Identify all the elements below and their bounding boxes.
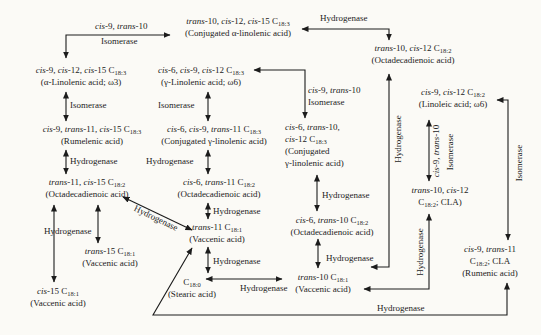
label-left-hydrogenase-2: Hydrogenase (44, 226, 91, 236)
node-line: cis-6, trans-10 C18:2 (286, 214, 378, 226)
label-stearic-hydrogenase: Hydrogenase (240, 283, 287, 293)
label-c13-isomerase-line2: Isomerase (308, 97, 344, 107)
node-line: cis-9, cis-12, cis-15 C18:3 (18, 64, 144, 76)
label-left-isomerase: Isomerase (70, 100, 106, 110)
node-line: cis-9, trans-11 (446, 243, 534, 255)
node-line: cis-9, cis-12 C18:2 (406, 86, 500, 98)
node-line: C18:2; CLA (446, 255, 534, 267)
node-linoleic-acid: cis-9, cis-12 C18:2(Linoleic acid; ω6) (406, 86, 500, 110)
node-conjugated-alpha-linolenic-acid: trans-10, cis-12, cis-15 C18:3(Conjugate… (174, 15, 302, 39)
node-gamma-linolenic-acid: cis-6, cis-9, cis-12 C18:3(γ-Linolenic a… (148, 64, 254, 88)
node-line: trans-10 C18:1 (286, 271, 360, 283)
node-line: cis-6, cis-9, trans-11 C18:3 (148, 123, 280, 135)
node-line: (Vaccenic acid) (172, 233, 262, 245)
node-cis15-vaccenic-acid: cis-15 C18:1(Vaccenic acid) (24, 285, 92, 309)
node-t10-vaccenic-acid: trans-10 C18:1(Vaccenic acid) (286, 271, 360, 295)
label-vertical-isomerase-line2: Isomerase (445, 134, 455, 170)
node-line: trans-10, cis-12 (395, 184, 485, 196)
node-c6t11-octadecadienoic-acid: cis-6, trans-11 C18:2(Octadecadienoic ac… (154, 176, 284, 200)
node-conjugated-gamma-linolenic-t10: cis-6, trans-10,cis-12 C18:3(Conjugatedγ… (285, 121, 365, 169)
node-t10c12-cla: trans-10, cis-12C18:2; CLA) (395, 184, 485, 208)
node-line: trans-10, cis-12 C18:2 (352, 42, 474, 54)
label-top-left-isomerase-line2: Isomerase (101, 36, 137, 46)
node-line: (Octadecadienoic acid) (17, 188, 157, 200)
node-line: γ-linolenic acid) (285, 157, 365, 169)
node-line: (Conjugated (285, 145, 365, 157)
label-left-hydrogenase-1: Hydrogenase (70, 156, 117, 166)
label-mid-hydrogenase-3: Hydrogenase (213, 256, 260, 266)
label-vertical-hydrogenase-left: Hydrogenase (393, 115, 403, 162)
arrow-linoleic-rumenic (497, 100, 508, 240)
node-line: (Vaccenic acid) (286, 283, 360, 295)
node-line: cis-15 C18:1 (24, 285, 92, 297)
node-line: (Vaccenic acid) (24, 297, 92, 309)
node-alpha-linolenic-acid: cis-9, cis-12, cis-15 C18:3(α-Linolenic … (18, 64, 144, 88)
node-line: trans-11, cis-15 C18:2 (17, 176, 157, 188)
node-trans15-vaccenic-acid: trans-15 C18:1(Vaccenic acid) (76, 245, 144, 269)
node-line: cis-6, trans-11 C18:2 (154, 176, 284, 188)
node-line: (γ-Linolenic acid; ω6) (148, 76, 254, 88)
label-mid-isomerase: Isomerase (158, 100, 194, 110)
node-line: cis-6, trans-10, (285, 121, 365, 133)
node-line: (Conjugated γ-linolenic acid) (148, 135, 280, 147)
label-vertical-hydrogenase-right: Hydrogenase (415, 228, 425, 275)
label-mid-hydrogenase-1: Hydrogenase (146, 156, 193, 166)
label-c15-hydrogenase: Hydrogenase (326, 253, 373, 263)
node-c6t10-octadecadienoic-acid: cis-6, trans-10 C18:2(Octadecadienoic ac… (286, 214, 378, 238)
node-line: (Linoleic acid; ω6) (406, 98, 500, 110)
label-top-left-isomerase-line1: cis-9, trans-10 (95, 21, 148, 31)
arrow-gamma-linolenic-conjugated-gamma-t10 (254, 70, 305, 118)
label-diagonal-hydrogenase: Hydrogenase (132, 203, 179, 233)
node-line: trans-10, cis-12, cis-15 C18:3 (174, 15, 302, 27)
node-line: trans-11 C18:1 (172, 221, 262, 233)
label-mid-hydrogenase-2: Hydrogenase (213, 206, 260, 216)
node-line: (Rumenic acid) (446, 267, 534, 279)
arrow-conjugated-alpha-t10c12-octadecadienoic (302, 29, 389, 40)
label-c13-isomerase-line1: cis-9, trans-10 (308, 85, 361, 95)
node-line: (α-Linolenic acid; ω3) (18, 76, 144, 88)
label-vertical-isomerase-line1: cis-9, trans-10 (431, 125, 441, 178)
node-t11c15-octadecadienoic-acid: trans-11, cis-15 C18:2(Octadecadienoic a… (17, 176, 157, 200)
node-stearic-acid: C18:0(Stearic acid) (158, 276, 226, 300)
node-t11-vaccenic-acid: trans-11 C18:1(Vaccenic acid) (172, 221, 262, 245)
node-rumelenic-acid: cis-9, trans-11, cis-15 C18:3(Rumelenic … (24, 123, 160, 147)
node-line: trans-15 C18:1 (76, 245, 144, 257)
node-line: (Octadecadienoic acid) (286, 226, 378, 238)
node-line: (Vaccenic acid) (76, 257, 144, 269)
label-c14-hydrogenase: Hydrogenase (322, 190, 369, 200)
label-far-right-isomerase: Isomerase (514, 145, 524, 181)
node-t10c12-octadecadienoic-acid: trans-10, cis-12 C18:2(Octadecadienoic a… (352, 42, 474, 66)
node-line: C18:0 (158, 276, 226, 288)
node-line: (Stearic acid) (158, 288, 226, 300)
node-line: (Conjugated α-linolenic acid) (174, 27, 302, 39)
label-top-hydrogenase: Hydrogenase (320, 13, 367, 23)
node-rumenic-acid: cis-9, trans-11C18:2; CLA(Rumenic acid) (446, 243, 534, 279)
node-conjugated-gamma-linolenic-t11: cis-6, cis-9, trans-11 C18:3(Conjugated … (148, 123, 280, 147)
node-line: cis-9, trans-11, cis-15 C18:3 (24, 123, 160, 135)
node-line: C18:2; CLA) (395, 196, 485, 208)
node-line: cis-6, cis-9, cis-12 C18:3 (148, 64, 254, 76)
node-line: (Octadecadienoic acid) (352, 54, 474, 66)
node-line: (Octadecadienoic acid) (154, 188, 284, 200)
node-line: (Rumelenic acid) (24, 135, 160, 147)
arrow-t10c12-octadecadienoic-t10-vaccenic (371, 74, 389, 267)
node-line: cis-12 C18:3 (285, 133, 365, 145)
label-bottom-hydrogenase: Hydrogenase (377, 303, 424, 313)
pathway-diagram: trans-10, cis-12, cis-15 C18:3(Conjugate… (0, 0, 541, 335)
